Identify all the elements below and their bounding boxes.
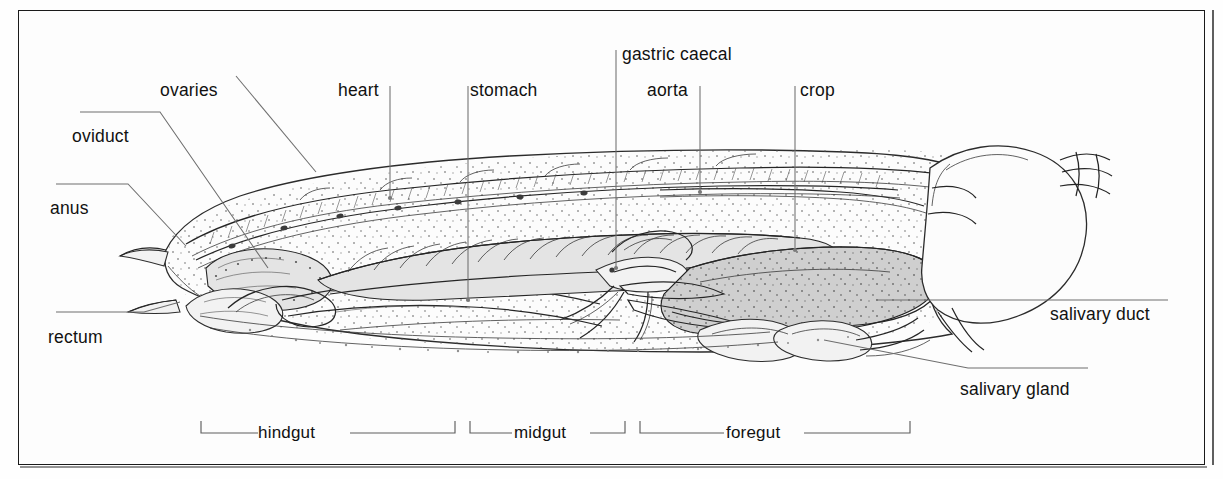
label-hindgut: hindgut [258, 423, 315, 443]
label-heart: heart [338, 80, 379, 100]
page-side-rule [1212, 10, 1214, 465]
label-oviduct: oviduct [72, 126, 129, 146]
label-ovaries: ovaries [160, 80, 218, 100]
label-midgut: midgut [514, 423, 566, 443]
label-aorta: aorta [647, 80, 688, 100]
frame-shadow [20, 466, 1207, 468]
label-salivary-duct: salivary duct [1050, 304, 1150, 324]
label-stomach: stomach [470, 80, 538, 100]
label-rectum: rectum [48, 327, 103, 347]
label-gastric-caecal: gastric caecal [622, 44, 732, 64]
label-crop: crop [800, 80, 835, 100]
label-foregut: foregut [726, 423, 780, 443]
figure-page: ovaries oviduct anus rectum heart stomac… [0, 0, 1223, 479]
label-salivary-gland: salivary gland [960, 379, 1070, 399]
label-anus: anus [50, 198, 89, 218]
